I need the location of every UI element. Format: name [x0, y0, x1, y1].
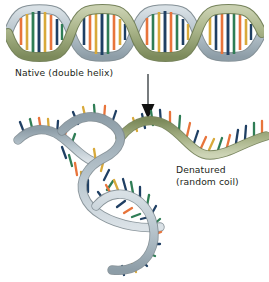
- dna-illustration: [0, 0, 269, 282]
- dna-double-helix: [8, 9, 262, 57]
- denatured-strand-upper: [120, 110, 266, 155]
- downward-arrow: [142, 74, 155, 119]
- denatured-strand-left: [18, 118, 92, 161]
- label-denatured-line2: (random coil): [176, 176, 239, 188]
- label-denatured-line1: Denatured: [176, 164, 226, 175]
- dna-denaturation-figure: Native (double helix) Denatured (random …: [0, 0, 269, 282]
- label-denatured-random-coil: Denatured (random coil): [176, 164, 239, 187]
- label-native-double-helix: Native (double helix): [15, 67, 113, 79]
